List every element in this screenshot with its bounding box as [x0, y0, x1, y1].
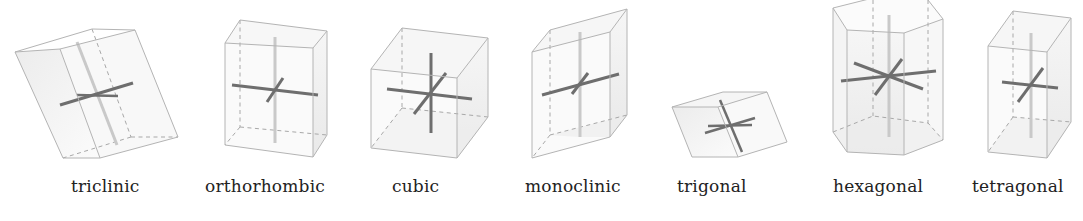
label-trigonal: trigonal — [677, 176, 747, 196]
cubic-crystal-shape — [371, 28, 488, 158]
label-cubic: cubic — [392, 176, 439, 196]
hexagonal-crystal-shape — [833, 0, 943, 155]
orthorhombic-crystal-shape — [225, 20, 327, 157]
trigonal-crystal-shape — [672, 92, 787, 157]
label-hexagonal: hexagonal — [833, 176, 923, 196]
label-tetragonal: tetragonal — [972, 176, 1064, 196]
monoclinic-crystal-shape — [532, 9, 627, 158]
triclinic-crystal-shape — [15, 29, 178, 158]
label-orthorhombic: orthorhombic — [205, 176, 325, 196]
label-triclinic: triclinic — [71, 176, 140, 196]
label-monoclinic: monoclinic — [525, 176, 621, 196]
tetragonal-crystal-shape — [988, 11, 1071, 158]
